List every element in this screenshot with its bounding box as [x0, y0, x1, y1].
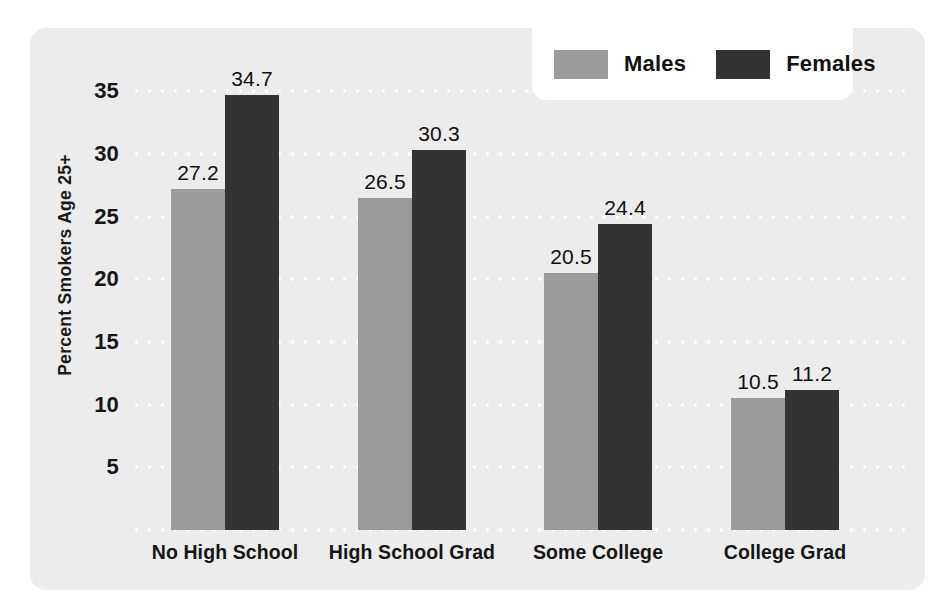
legend-entry-females[interactable]: Females — [716, 50, 875, 79]
y-axis-tick-label: 20 — [94, 266, 119, 292]
chart-figure: Percent Smokers Age 25+ 5101520253035 Ma… — [0, 0, 949, 611]
females-swatch-icon — [716, 50, 770, 79]
bar-males-0[interactable] — [171, 189, 225, 530]
bar-value-label: 30.3 — [402, 122, 476, 146]
bar-value-label: 24.4 — [588, 196, 662, 220]
males-swatch-icon — [554, 50, 608, 79]
y-axis-tick-label: 5 — [107, 454, 119, 480]
y-axis-tick-labels: 5101520253035 — [75, 60, 119, 530]
y-axis-tick-label: 10 — [94, 392, 119, 418]
bar-females-3[interactable] — [785, 390, 839, 530]
y-axis-tick-label: 35 — [94, 78, 119, 104]
bar-value-label: 26.5 — [348, 170, 422, 194]
x-axis-category-label: Some College — [489, 541, 707, 564]
y-axis-tick-label: 30 — [94, 141, 119, 167]
chart-legend: Males Females — [532, 28, 853, 100]
legend-label-females: Females — [786, 51, 875, 77]
bar-value-label: 34.7 — [215, 67, 289, 91]
y-axis-tick-label: 25 — [94, 204, 119, 230]
bar-value-label: 27.2 — [161, 161, 235, 185]
legend-label-males: Males — [624, 51, 686, 77]
plot-area — [130, 60, 905, 530]
bar-value-label: 11.2 — [775, 362, 849, 386]
bar-males-2[interactable] — [544, 273, 598, 530]
bar-value-label: 20.5 — [534, 245, 608, 269]
x-axis-category-label: No High School — [116, 541, 334, 564]
bar-males-3[interactable] — [731, 398, 785, 530]
x-axis-category-label: College Grad — [676, 541, 894, 564]
bar-females-1[interactable] — [412, 150, 466, 530]
bar-females-2[interactable] — [598, 224, 652, 530]
y-axis-tick-label: 15 — [94, 329, 119, 355]
bar-males-1[interactable] — [358, 198, 412, 530]
legend-entry-males[interactable]: Males — [554, 50, 686, 79]
